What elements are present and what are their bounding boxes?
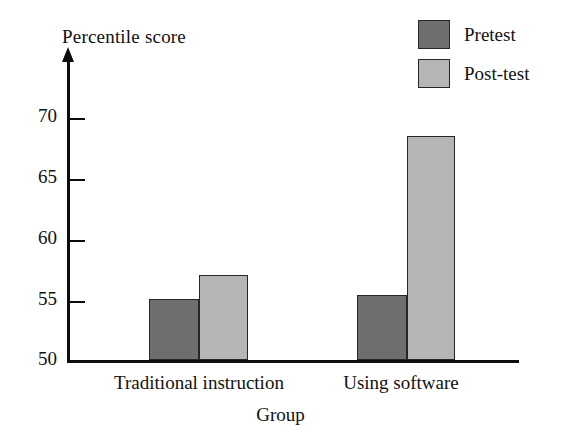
x-axis-line <box>67 360 519 363</box>
legend-item-posttest: Post-test <box>418 59 529 88</box>
bar-traditional-posttest <box>199 275 248 360</box>
legend-swatch-posttest <box>418 59 450 88</box>
legend: Pretest Post-test <box>418 20 529 98</box>
x-category-label-traditional: Traditional instruction <box>114 372 284 394</box>
x-axis-title: Group <box>0 404 561 426</box>
legend-item-pretest: Pretest <box>418 20 529 49</box>
y-axis-line <box>67 60 70 362</box>
legend-label-posttest: Post-test <box>464 63 529 85</box>
plot-area: 70 65 60 55 50 Traditional instruction U… <box>67 60 519 362</box>
y-tick-label-50: 50 <box>38 349 57 369</box>
legend-label-pretest: Pretest <box>464 24 516 46</box>
y-axis-arrow-icon <box>62 47 74 62</box>
x-category-label-software: Using software <box>343 372 459 394</box>
y-tick-65: 65 <box>70 179 85 181</box>
bar-software-posttest <box>407 136 455 360</box>
y-axis-title: Percentile score <box>62 26 186 48</box>
y-tick-label-60: 60 <box>38 228 57 248</box>
y-tick-label-65: 65 <box>38 167 57 187</box>
bar-traditional-pretest <box>149 299 199 360</box>
y-tick-55: 55 <box>70 301 85 303</box>
y-tick-label-70: 70 <box>38 106 57 126</box>
bar-software-pretest <box>357 295 407 360</box>
y-tick-70: 70 <box>70 118 85 120</box>
bar-chart: Percentile score 70 65 60 55 50 Traditio… <box>0 0 561 446</box>
y-tick-60: 60 <box>70 240 85 242</box>
legend-swatch-pretest <box>418 20 450 49</box>
y-tick-label-55: 55 <box>38 289 57 309</box>
